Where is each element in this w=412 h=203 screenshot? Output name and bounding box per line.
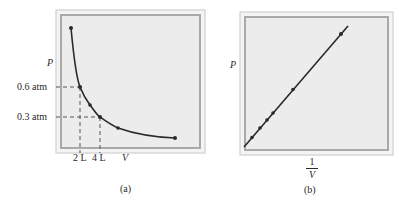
x-axis-label-b-denominator: V xyxy=(305,170,319,180)
caption-b: (b) xyxy=(304,185,316,195)
y-axis-label-b: P xyxy=(230,60,236,70)
x-tick-2-l: 2 L xyxy=(73,153,87,163)
caption-a: (a) xyxy=(120,184,131,194)
x-tick-4-l: 4 L xyxy=(92,153,106,163)
panel-b-frame xyxy=(240,12,393,155)
x-axis-label-a: V xyxy=(122,153,128,163)
y-tick-0-6-atm: 0.6 atm xyxy=(17,82,47,92)
x-axis-label-b-numerator: 1 xyxy=(305,157,319,167)
y-axis-label-a: P xyxy=(47,58,53,68)
x-axis-label-b: 1 V xyxy=(305,157,319,180)
figure-svg xyxy=(0,0,412,203)
y-tick-0-3-atm: 0.3 atm xyxy=(17,112,47,122)
